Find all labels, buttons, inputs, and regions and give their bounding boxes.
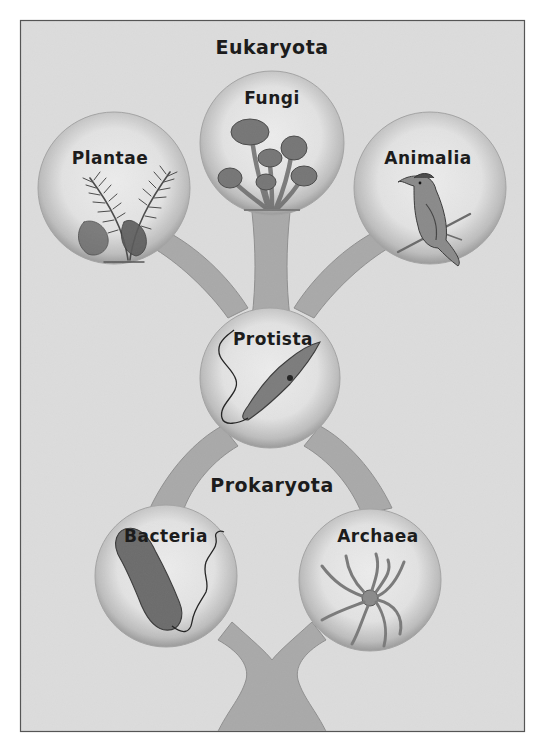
- paper-grain: [21, 21, 524, 731]
- tree-of-life-diagram: Eukaryota Fungi Plantae Animalia Protist…: [0, 0, 542, 740]
- node-label-fungi: Fungi: [244, 88, 299, 108]
- node-label-archaea: Archaea: [337, 526, 419, 546]
- group-label-prokaryota: Prokaryota: [210, 474, 334, 496]
- node-label-plantae: Plantae: [72, 148, 149, 168]
- node-label-bacteria: Bacteria: [124, 526, 208, 546]
- node-label-animalia: Animalia: [384, 148, 471, 168]
- node-label-protista: Protista: [233, 329, 313, 349]
- group-label-eukaryota: Eukaryota: [215, 36, 328, 58]
